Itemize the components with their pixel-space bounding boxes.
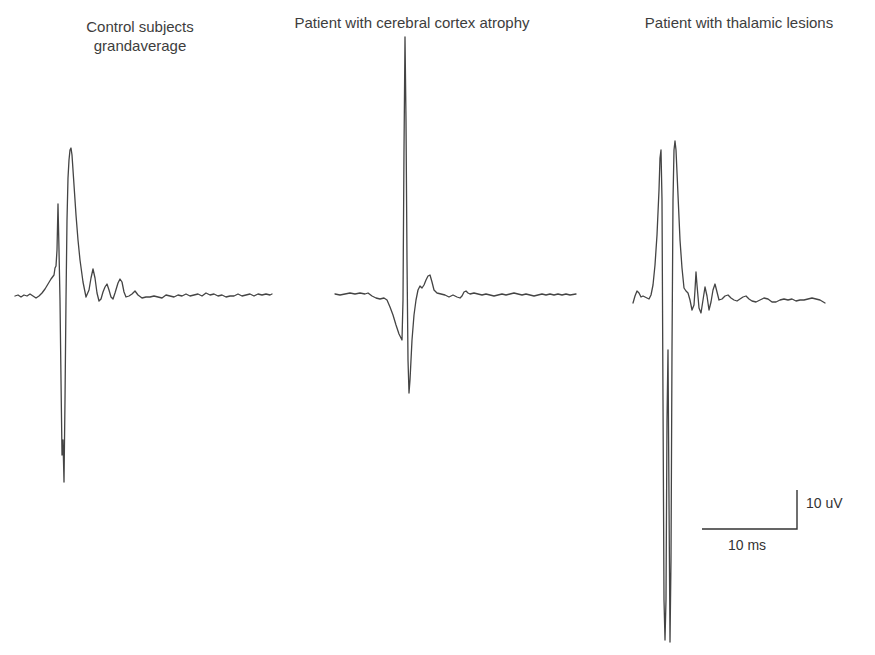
trace-thalamic-lesions (633, 141, 825, 642)
waveform-plot (0, 0, 875, 655)
trace-cortex-atrophy (335, 37, 576, 393)
trace-control (15, 148, 272, 482)
scale-bar-time-label: 10 ms (728, 537, 766, 553)
scale-bar (702, 490, 797, 529)
scale-bar-voltage-label: 10 uV (806, 495, 843, 511)
